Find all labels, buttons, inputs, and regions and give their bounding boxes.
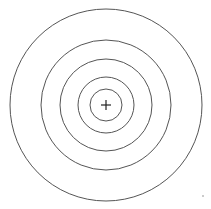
speck-dot <box>202 195 204 197</box>
concentric-circles-diagram <box>0 0 211 209</box>
center-crosshair-icon <box>101 100 111 110</box>
